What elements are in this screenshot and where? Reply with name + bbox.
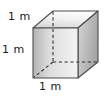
width-label: 1 m (39, 81, 62, 93)
cube-figure: 1 m 1 m 1 m (0, 0, 109, 98)
depth-label: 1 m (8, 11, 31, 23)
height-label: 1 m (2, 44, 25, 56)
cube-front-face (33, 28, 78, 78)
